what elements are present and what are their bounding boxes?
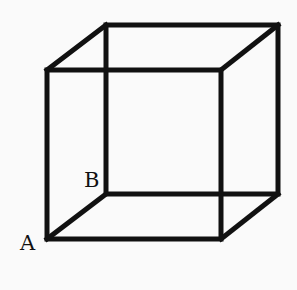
vertex-label-b: B xyxy=(84,168,99,192)
edge-bottom-right xyxy=(221,194,278,239)
vertex-label-a: A xyxy=(19,231,36,255)
front-face xyxy=(47,70,221,239)
edge-bottom-left xyxy=(47,194,106,239)
cube-diagram: B A xyxy=(0,0,297,290)
edge-top-right xyxy=(221,25,278,70)
edge-top-left xyxy=(47,25,106,70)
back-face xyxy=(106,25,278,194)
